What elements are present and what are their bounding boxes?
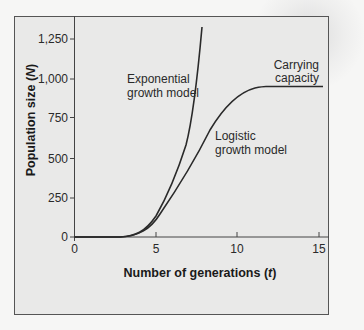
- x-tick-5: 5: [153, 242, 160, 256]
- x-tick-15: 15: [312, 242, 326, 256]
- logistic-annotation: Logistic growth model: [215, 129, 287, 157]
- y-tick-1000: 1,000: [38, 72, 68, 86]
- x-tick-0: 0: [71, 242, 78, 256]
- exponential-annotation: Exponential growth model: [127, 72, 199, 100]
- y-axis-title: Population size (N): [24, 64, 38, 177]
- logistic-label-line1: Logistic: [215, 129, 256, 143]
- exponential-label-line1: Exponential: [127, 72, 190, 86]
- carrying-capacity-annotation: Carrying capacity: [274, 58, 319, 85]
- y-tick-1250: 1,250: [38, 32, 68, 46]
- y-ticks: [70, 39, 75, 237]
- logistic-growth-curve: [75, 87, 324, 238]
- y-tick-0: 0: [61, 230, 68, 244]
- y-tick-250: 250: [48, 191, 68, 205]
- carrying-capacity-line1: Carrying: [274, 58, 319, 72]
- y-tick-labels: 0 250 500 750 1,000 1,250: [38, 32, 68, 244]
- logistic-label-line2: growth model: [215, 143, 287, 157]
- x-tick-labels: 0 5 10 15: [71, 242, 326, 256]
- x-tick-10: 10: [230, 242, 244, 256]
- x-axis-title: Number of generations (t): [124, 266, 277, 280]
- carrying-capacity-line2: capacity: [275, 71, 319, 85]
- y-tick-750: 750: [48, 111, 68, 125]
- exponential-growth-curve: [75, 27, 203, 237]
- exponential-label-line2: growth model: [127, 86, 199, 100]
- y-tick-500: 500: [48, 152, 68, 166]
